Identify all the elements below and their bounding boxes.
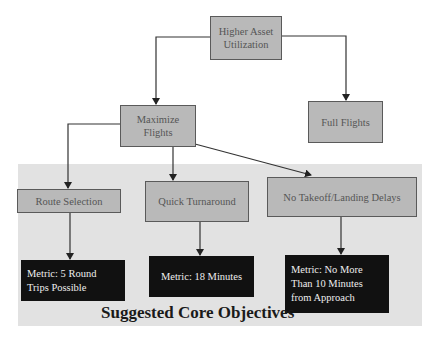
node-no-takeoff-landing-delays: No Takeoff/Landing Delays <box>267 177 417 217</box>
node-label: Quick Turnaround <box>158 195 235 208</box>
node-maximize-flights: Maximize Flights <box>120 105 196 147</box>
node-label: No Takeoff/Landing Delays <box>283 191 400 204</box>
node-label: Route Selection <box>36 195 103 208</box>
node-label: Maximize Flights <box>125 113 191 139</box>
node-quick-turnaround: Quick Turnaround <box>145 181 249 222</box>
node-route-selection: Route Selection <box>17 189 121 213</box>
metric-label: Metric: 18 Minutes <box>161 270 242 284</box>
diagram-title: Suggested Core Objectives <box>101 303 294 323</box>
node-label: Higher Asset Utilization <box>215 25 277 51</box>
metric-label: Metric: No More Than 10 Minutes from App… <box>291 263 383 305</box>
node-higher-asset-utilization: Higher Asset Utilization <box>210 16 282 60</box>
node-label: Full Flights <box>321 116 370 129</box>
metric-no-delays: Metric: No More Than 10 Minutes from App… <box>285 255 389 313</box>
node-full-flights: Full Flights <box>308 101 383 143</box>
metric-route-selection: Metric: 5 Round Trips Possible <box>21 260 125 301</box>
metric-label: Metric: 5 Round Trips Possible <box>27 267 119 295</box>
metric-quick-turnaround: Metric: 18 Minutes <box>149 256 254 297</box>
